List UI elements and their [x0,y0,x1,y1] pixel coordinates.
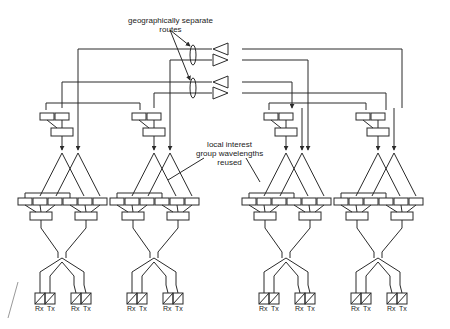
tx-label: Tx [83,305,91,312]
rx-label: Rx [387,305,396,312]
node-group-1 [18,108,107,304]
routes-annotation: geographically separate routes [128,16,213,34]
rx-label: Rx [295,305,304,312]
route-ellipse-lower [190,78,196,98]
tx-label: Tx [139,305,147,312]
tx-label: Tx [271,305,279,312]
route-ellipse-upper [190,45,196,65]
rx-label: Rx [163,305,172,312]
amplifiers [213,43,228,99]
rx-label: Rx [259,305,268,312]
local-interest-annotation: local interest group wavelengths reused [196,140,263,167]
rx-label: Rx [35,305,44,312]
node-group-3 [242,108,331,304]
tx-label: Tx [363,305,371,312]
tx-label: Tx [175,305,183,312]
node-group-4 [334,108,423,304]
node-group-2 [110,108,199,304]
rx-label: Rx [127,305,136,312]
tx-label: Tx [47,305,55,312]
tx-label: Tx [307,305,315,312]
tx-label: Tx [399,305,407,312]
rx-label: Rx [71,305,80,312]
trunk-lines [46,49,402,150]
rx-label: Rx [351,305,360,312]
